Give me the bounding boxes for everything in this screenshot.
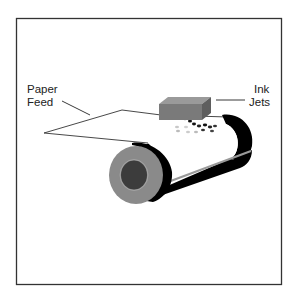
print-head xyxy=(159,97,211,120)
roller-core xyxy=(121,161,147,190)
paper-feed-label-line2: Feed xyxy=(27,96,53,108)
inkjet-diagram: Paper Feed Ink Jets xyxy=(0,0,295,301)
ink-jets-label-line1: Ink xyxy=(254,83,270,95)
paper-feed-label-line1: Paper xyxy=(27,83,58,95)
ink-jets-label-line2: Jets xyxy=(249,96,270,108)
